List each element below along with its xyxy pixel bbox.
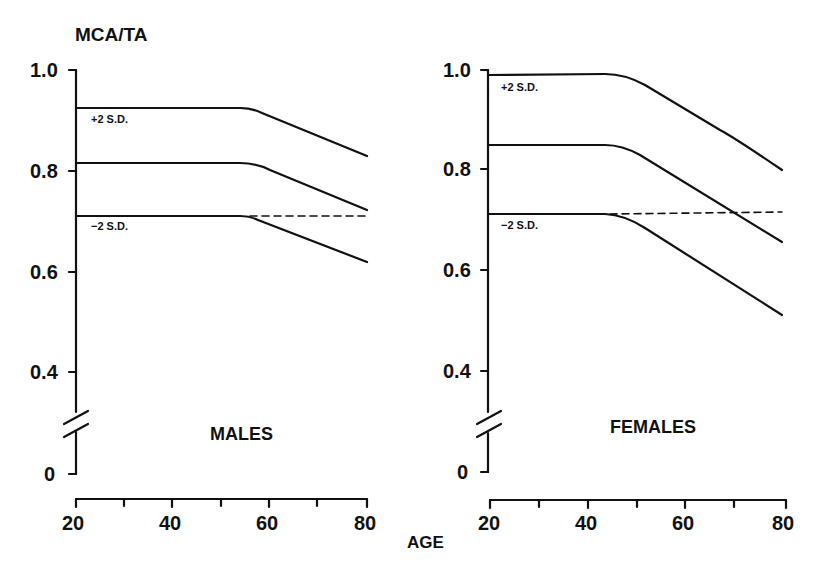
females-ytick-0: 0 bbox=[457, 461, 468, 484]
males-xtick-40: 40 bbox=[159, 512, 181, 535]
y-axis-title: MCA/TA bbox=[75, 24, 147, 46]
females-y-axis bbox=[477, 70, 501, 472]
females-xtick-20: 20 bbox=[478, 512, 500, 535]
females-x-axis bbox=[490, 500, 786, 508]
males-xtick-60: 60 bbox=[256, 512, 278, 535]
females-ytick-0.4: 0.4 bbox=[443, 360, 471, 383]
males-ytick-0.8: 0.8 bbox=[30, 160, 58, 183]
males-ytick-1.0: 1.0 bbox=[30, 59, 58, 82]
females-panel-title: FEMALES bbox=[610, 417, 696, 438]
females-ytick-0.8: 0.8 bbox=[443, 158, 471, 181]
chart-canvas bbox=[0, 0, 821, 573]
males-ytick-0.4: 0.4 bbox=[30, 361, 58, 384]
females-minus2sd-label: −2 S.D. bbox=[501, 219, 538, 231]
females-plus2sd-label: +2 S.D. bbox=[501, 81, 538, 93]
x-axis-title: AGE bbox=[407, 533, 444, 553]
axis-break-mark bbox=[477, 411, 501, 424]
females-xtick-40: 40 bbox=[575, 512, 597, 535]
females-ytick-1.0: 1.0 bbox=[443, 59, 471, 82]
males-xtick-20: 20 bbox=[62, 512, 84, 535]
males-ytick-0.6: 0.6 bbox=[30, 261, 58, 284]
males-x-axis bbox=[76, 499, 367, 507]
males-minus2sd-label: −2 S.D. bbox=[91, 220, 128, 232]
males-ytick-0: 0 bbox=[44, 463, 55, 486]
males-panel-title: MALES bbox=[210, 424, 273, 445]
females-reference-dashed-line bbox=[610, 212, 782, 214]
females-xtick-80: 80 bbox=[772, 512, 794, 535]
females-xtick-60: 60 bbox=[672, 512, 694, 535]
females-ytick-0.6: 0.6 bbox=[443, 259, 471, 282]
males-xtick-80: 80 bbox=[354, 512, 376, 535]
males-plus2sd-label: +2 S.D. bbox=[91, 113, 128, 125]
males-y-axis bbox=[64, 70, 88, 474]
males-mean-line bbox=[76, 163, 367, 210]
